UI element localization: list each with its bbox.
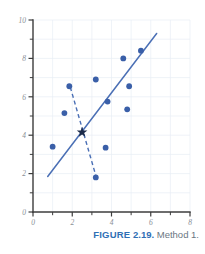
x-tick-label: 0: [31, 218, 35, 227]
data-point: [120, 56, 126, 62]
y-tick-label: 2: [22, 169, 26, 178]
data-point: [126, 83, 132, 89]
y-tick-label: 4: [22, 131, 26, 140]
x-tick-label: 8: [188, 218, 192, 227]
y-tick-label: 10: [19, 16, 27, 25]
y-tick-label: 6: [22, 93, 26, 102]
data-point: [93, 175, 99, 181]
caption-label: FIGURE: [93, 229, 130, 240]
figure-container: 024680246810 FIGURE 2.19. Method 1.: [0, 0, 205, 254]
regression-line-solid: [48, 33, 157, 176]
figure-caption: FIGURE 2.19. Method 1.: [0, 229, 199, 241]
data-point: [93, 77, 99, 83]
y-tick-label: 8: [22, 54, 26, 63]
data-point: [62, 110, 68, 116]
scatter-plot: 024680246810: [0, 0, 205, 230]
x-tick-label: 4: [110, 218, 114, 227]
grid-lines: [33, 20, 190, 212]
data-point: [105, 99, 111, 105]
data-point: [50, 144, 56, 150]
tick-labels: 024680246810: [19, 16, 193, 227]
data-point: [103, 145, 109, 151]
data-point: [124, 106, 130, 112]
data-point: [138, 48, 144, 54]
x-tick-label: 2: [70, 218, 74, 227]
x-tick-label: 6: [149, 218, 153, 227]
caption-text: Method 1.: [157, 229, 199, 240]
data-point: [66, 83, 72, 89]
caption-number: 2.19.: [133, 229, 154, 240]
y-tick-label: 0: [22, 208, 26, 217]
fit-lines: [48, 33, 157, 176]
